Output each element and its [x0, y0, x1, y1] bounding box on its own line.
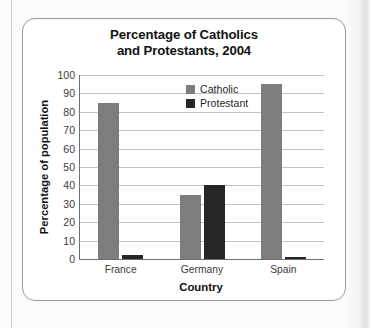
y-axis-tick-label: 40	[63, 179, 75, 191]
scanned-page-background: Percentage of Catholics and Protestants,…	[0, 0, 370, 328]
y-axis-tick-label: 70	[63, 124, 75, 136]
figure-frame: Percentage of Catholics and Protestants,…	[22, 18, 346, 301]
x-axis-tick-label: France	[105, 264, 137, 275]
x-axis-title: Country	[79, 281, 323, 293]
chart-title-line-1: Percentage of Catholics	[23, 27, 345, 43]
bar-germany-catholic	[180, 195, 201, 259]
y-axis-title: Percentage of population	[36, 75, 52, 259]
chart-legend: Catholic Protestant	[186, 83, 248, 109]
y-axis-tick-label: 50	[63, 161, 75, 173]
x-axis-tick-label: Spain	[270, 264, 296, 275]
y-axis-tick-label: 60	[63, 143, 75, 155]
y-axis-title-text: Percentage of population	[38, 100, 50, 234]
page-edge-shadow	[348, 0, 370, 328]
y-axis-tick-label: 90	[63, 87, 75, 99]
y-axis-tick-label: 0	[69, 253, 75, 265]
y-axis-tick-label: 20	[63, 216, 75, 228]
plot-area: 0102030405060708090100 FranceGermanySpai…	[79, 75, 324, 260]
bar-spain-catholic	[261, 84, 282, 259]
y-axis-tick-label: 100	[57, 69, 75, 81]
protestant-swatch-icon	[186, 99, 195, 108]
legend-label-catholic: Catholic	[200, 83, 238, 95]
catholic-swatch-icon	[186, 85, 195, 94]
x-axis-tick-label: Germany	[181, 264, 223, 275]
bar-germany-protestant	[204, 185, 225, 259]
y-axis-tick-label: 30	[63, 198, 75, 210]
legend-entry-protestant: Protestant	[186, 97, 248, 109]
y-axis-tick-label: 80	[63, 106, 75, 118]
bar-france-catholic	[98, 103, 119, 259]
y-axis-tick-label: 10	[63, 235, 75, 247]
legend-entry-catholic: Catholic	[186, 83, 248, 95]
chart-title: Percentage of Catholics and Protestants,…	[23, 27, 345, 58]
page-gutter-rule	[11, 0, 12, 328]
bar-spain-protestant	[285, 257, 306, 259]
legend-label-protestant: Protestant	[200, 97, 248, 109]
bar-france-protestant	[122, 255, 143, 259]
chart-title-line-2: and Protestants, 2004	[23, 43, 345, 59]
gridline	[80, 75, 324, 76]
